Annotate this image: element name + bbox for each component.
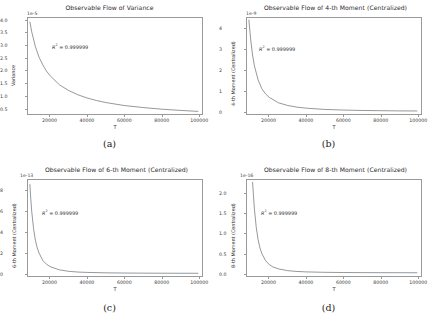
subplot-a-ytick-mark	[25, 83, 27, 84]
subplot-d-ytick-mark	[244, 274, 246, 275]
subplot-a-curve-svg	[28, 18, 202, 114]
subplot-d-ytick-label: 1.5	[219, 211, 241, 216]
subplot-d-xtick-mark	[268, 277, 269, 279]
subplot-a-ytick-mark	[25, 70, 27, 71]
subplot-a-data-curve	[30, 22, 198, 112]
subplot-a-ytick-label: 4.0	[0, 17, 22, 22]
subplot-b-curve-svg	[247, 18, 421, 114]
subplot-a-ytick-label: 2.0	[0, 68, 22, 73]
subplot-d-xtick-mark	[343, 277, 344, 279]
subplot-a-ytick-mark	[25, 32, 27, 33]
subplot-a-xtick-mark	[87, 115, 88, 117]
subplot-c-ytick-label: 6	[0, 208, 22, 213]
subplot-a-ytick-mark	[25, 109, 27, 110]
subplot-c-title: Observable Flow of 6-th Moment (Centrali…	[0, 166, 219, 173]
figure-panel-grid: Observable Flow of Variance 1e-5 R2 = 0.…	[0, 0, 439, 329]
subplot-d-plot-area	[246, 179, 422, 277]
subplot-b-ytick-label: 2	[219, 68, 241, 73]
subplot-b-data-curve	[249, 20, 417, 111]
subplot-c-xtick-mark	[199, 277, 200, 279]
subplot-b-ytick-mark	[244, 91, 246, 92]
subplot-a-ytick-label: 3.5	[0, 30, 22, 35]
subplot-a-xlabel: T	[113, 124, 116, 130]
subplot-d-curve-svg	[247, 180, 421, 276]
subplot-b: Observable Flow of 4-th Moment (Centrali…	[219, 0, 438, 164]
subplot-a-xtick-label: 100000	[190, 118, 208, 123]
subplot-b-y-exponent: 1e-9	[246, 11, 256, 16]
subplot-b-ytick-label: 3	[219, 46, 241, 51]
subplot-d-r2-exponent: 2	[264, 209, 266, 213]
subplot-a-y-exponent: 1e-5	[27, 11, 37, 16]
subplot-b-xtick-mark	[418, 115, 419, 117]
subplot-c-xtick-label: 20000	[42, 280, 57, 285]
subplot-c-ytick-label: 0	[0, 272, 22, 277]
subplot-c-ytick-mark	[25, 253, 27, 254]
subplot-a-ytick-label: 1.0	[0, 93, 22, 98]
subplot-c-curve-svg	[28, 180, 202, 276]
subplot-b-xtick-label: 80000	[373, 118, 388, 123]
subplot-a-xtick-mark	[162, 115, 163, 117]
subplot-a-ytick-mark	[25, 45, 27, 46]
subplot-a-ytick-mark	[25, 20, 27, 21]
subplot-b-ytick-mark	[244, 28, 246, 29]
subplot-c-caption: (c)	[0, 302, 219, 313]
subplot-a-xtick-label: 20000	[42, 118, 57, 123]
subplot-b-xtick-mark	[306, 115, 307, 117]
subplot-c-plot-area	[27, 179, 203, 277]
subplot-a-r2-exponent: 2	[55, 43, 57, 47]
subplot-b-ytick-mark	[244, 49, 246, 50]
subplot-b-xtick-mark	[268, 115, 269, 117]
subplot-d-xtick-mark	[381, 277, 382, 279]
subplot-d-xtick-label: 20000	[261, 280, 276, 285]
subplot-a-ytick-mark	[25, 96, 27, 97]
subplot-b-title: Observable Flow of 4-th Moment (Centrali…	[219, 4, 438, 11]
subplot-b-xtick-mark	[343, 115, 344, 117]
subplot-d-xtick-label: 100000	[409, 280, 427, 285]
subplot-d-r2-value: = 0.999999	[268, 210, 297, 216]
subplot-c-xtick-mark	[49, 277, 50, 279]
subplot-a-ytick-label: 3.0	[0, 43, 22, 48]
subplot-b-ytick-label: 0	[219, 110, 241, 115]
subplot-d-r2-annotation: R2 = 0.999999	[261, 209, 297, 216]
subplot-a-ytick-label: 0.5	[0, 106, 22, 111]
subplot-d-xtick-mark	[418, 277, 419, 279]
subplot-b-xtick-label: 40000	[298, 118, 313, 123]
subplot-b-r2-exponent: 2	[262, 45, 264, 49]
subplot-a-ytick-mark	[25, 58, 27, 59]
subplot-b-xtick-label: 20000	[261, 118, 276, 123]
subplot-d-y-exponent: 1e-16	[240, 173, 253, 178]
subplot-b-xtick-mark	[381, 115, 382, 117]
subplot-d-xtick-label: 60000	[336, 280, 351, 285]
subplot-c-ytick-mark	[25, 190, 27, 191]
subplot-a-plot-area	[27, 17, 203, 115]
subplot-b-ytick-mark	[244, 112, 246, 113]
subplot-b-caption: (b)	[219, 138, 438, 149]
subplot-a-xtick-mark	[124, 115, 125, 117]
subplot-c-xtick-mark	[87, 277, 88, 279]
subplot-b-plot-area	[246, 17, 422, 115]
subplot-d-ytick-mark	[244, 213, 246, 214]
subplot-b-ytick-label: 4	[219, 25, 241, 30]
subplot-d-caption: (d)	[219, 302, 438, 313]
subplot-c-ytick-label: 2	[0, 251, 22, 256]
subplot-b-xlabel: T	[332, 124, 335, 130]
subplot-d: Observable Flow of 8-th Moment (Centrali…	[219, 162, 438, 326]
subplot-d-xtick-label: 40000	[298, 280, 313, 285]
subplot-c-xlabel: T	[113, 286, 116, 292]
subplot-a-xtick-mark	[199, 115, 200, 117]
subplot-d-xtick-label: 80000	[373, 280, 388, 285]
subplot-d-ytick-mark	[244, 254, 246, 255]
subplot-c-r2-value: = 0.999999	[49, 210, 78, 216]
subplot-a-xtick-label: 60000	[117, 118, 132, 123]
subplot-b-xtick-label: 60000	[336, 118, 351, 123]
subplot-a: Observable Flow of Variance 1e-5 R2 = 0.…	[0, 0, 219, 164]
subplot-c-xtick-label: 60000	[117, 280, 132, 285]
subplot-a-xtick-label: 40000	[79, 118, 94, 123]
subplot-c-ytick-mark	[25, 211, 27, 212]
subplot-a-ytick-label: 2.5	[0, 55, 22, 60]
subplot-c-r2-exponent: 2	[45, 209, 47, 213]
subplot-c-xtick-mark	[124, 277, 125, 279]
subplot-a-ytick-label: 1.5	[0, 81, 22, 86]
subplot-d-ytick-mark	[244, 193, 246, 194]
subplot-d-ytick-label: 0.0	[219, 271, 241, 276]
